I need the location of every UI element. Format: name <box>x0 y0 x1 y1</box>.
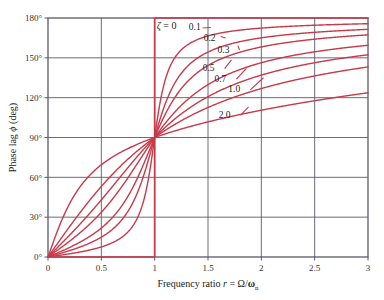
y-tick-label: 0° <box>34 252 43 262</box>
curve-label-2: 2.0 <box>219 110 231 120</box>
y-tick-label: 90° <box>29 133 42 143</box>
y-tick-label: 60° <box>29 173 42 183</box>
curve-label-0-1: 0.1 <box>189 22 201 32</box>
y-tick-labels: 0°30°60°90°120°150°180° <box>25 13 43 262</box>
y-tick-label: 180° <box>25 13 43 23</box>
curve-label-0-3: 0.3 <box>218 45 230 55</box>
curve-label-1: 1.0 <box>228 84 240 94</box>
y-tick-label: 30° <box>29 212 42 222</box>
chart-canvas: 00.511.522.53 0°30°60°90°120°150°180° ζ … <box>0 0 384 300</box>
leader-line <box>203 27 211 28</box>
x-tick-label: 1 <box>152 263 157 273</box>
x-tick-label: 0.5 <box>96 263 108 273</box>
x-tick-label: 2.5 <box>309 263 321 273</box>
x-axis-title: Frequency ratio r = Ω/ωn <box>157 278 259 292</box>
y-tick-label: 120° <box>25 93 43 103</box>
grid-layer <box>48 18 368 257</box>
y-tick-label: 150° <box>25 53 43 63</box>
x-tick-label: 1.5 <box>202 263 214 273</box>
x-tick-labels: 00.511.522.53 <box>46 263 371 273</box>
phase-lag-chart: 00.511.522.53 0°30°60°90°120°150°180° ζ … <box>0 0 384 300</box>
y-axis-title: Phase lag ϕ (deg) <box>7 103 19 172</box>
curve-label-0-2: 0.2 <box>204 33 216 43</box>
curve-label-zeta-0: ζ = 0 <box>157 20 177 32</box>
x-tick-label: 2 <box>259 263 264 273</box>
x-tick-label: 3 <box>366 263 371 273</box>
curve-label-0-5: 0.5 <box>203 63 215 73</box>
x-tick-label: 0 <box>46 263 51 273</box>
curve-label-0-7: 0.7 <box>214 74 226 84</box>
